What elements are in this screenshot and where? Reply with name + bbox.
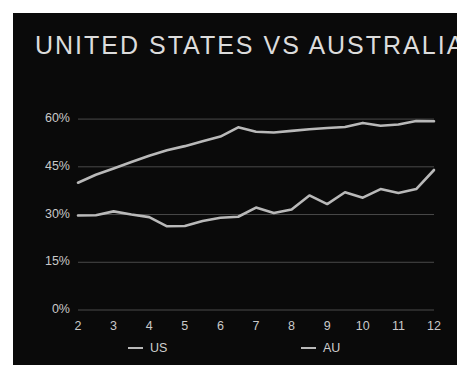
series-line-au xyxy=(78,170,434,226)
y-axis-tick-label: 30% xyxy=(24,207,70,221)
series-lines xyxy=(78,121,434,226)
series-line-us xyxy=(78,121,434,183)
legend-item-us[interactable]: US xyxy=(128,341,167,355)
x-axis-tick-label: 12 xyxy=(421,319,447,333)
x-axis-tick-label: 8 xyxy=(279,319,305,333)
chart-frame: UNITED STATES VS AUSTRALIA 60%45%30%15%0… xyxy=(0,0,470,377)
x-axis-tick-label: 9 xyxy=(314,319,340,333)
x-axis-tick-label: 3 xyxy=(101,319,127,333)
legend-line-icon-us xyxy=(128,347,143,349)
y-axis-tick-label: 15% xyxy=(24,254,70,268)
legend: US AU xyxy=(13,339,457,361)
x-axis-tick-label: 2 xyxy=(65,319,91,333)
plot-area: 60%45%30%15%0% 23456789101112 xyxy=(13,13,457,365)
y-axis-tick-label: 60% xyxy=(24,111,70,125)
y-axis-tick-label: 45% xyxy=(24,159,70,173)
y-axis-tick-label: 0% xyxy=(24,302,70,316)
x-axis-tick-label: 6 xyxy=(207,319,233,333)
legend-line-icon-au xyxy=(301,347,316,349)
chart-panel: UNITED STATES VS AUSTRALIA 60%45%30%15%0… xyxy=(13,13,457,365)
legend-item-au[interactable]: AU xyxy=(301,341,340,355)
x-axis-tick-label: 11 xyxy=(385,319,411,333)
x-axis-tick-label: 4 xyxy=(136,319,162,333)
x-axis-tick-label: 7 xyxy=(243,319,269,333)
x-axis-tick-label: 10 xyxy=(350,319,376,333)
legend-label-au: AU xyxy=(323,341,340,355)
line-chart-svg xyxy=(13,13,457,365)
x-axis-tick-label: 5 xyxy=(172,319,198,333)
legend-label-us: US xyxy=(150,341,167,355)
